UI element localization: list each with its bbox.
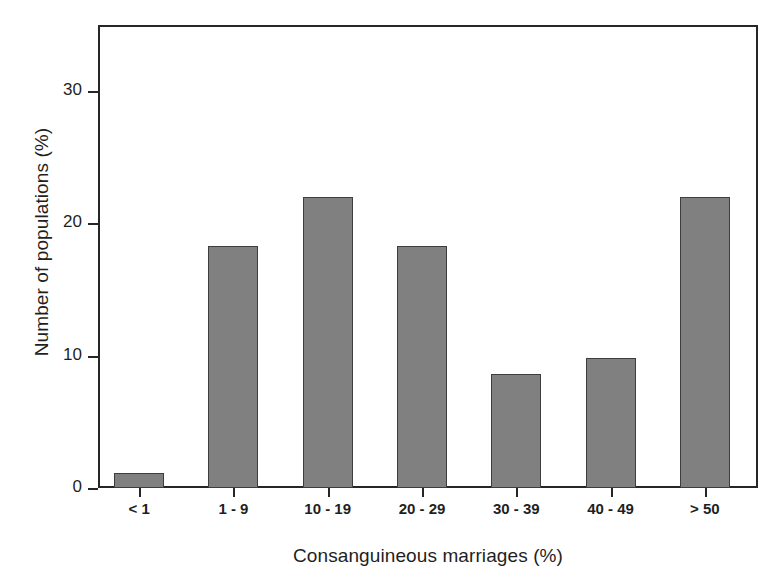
y-axis-tick	[88, 356, 98, 358]
y-axis-tick	[88, 91, 98, 93]
y-axis-tick	[88, 488, 98, 490]
x-axis-tick	[611, 488, 613, 497]
x-axis-tick	[516, 488, 518, 497]
x-axis-tick-label: > 50	[660, 500, 750, 517]
y-axis-tick-label: 0	[24, 477, 82, 497]
bar	[397, 246, 447, 488]
x-axis-tick	[705, 488, 707, 497]
y-axis-tick-label: 30	[24, 80, 82, 100]
bar	[208, 246, 258, 488]
x-axis-tick-label: 40 - 49	[566, 500, 656, 517]
bar	[491, 374, 541, 488]
x-axis-tick	[233, 488, 235, 497]
x-axis-tick	[139, 488, 141, 497]
bar	[303, 197, 353, 488]
x-axis-tick-label: 20 - 29	[377, 500, 467, 517]
x-axis-title: Consanguineous marriages (%)	[98, 545, 758, 567]
bar	[114, 473, 164, 488]
x-axis-tick-label: 1 - 9	[188, 500, 278, 517]
bar	[680, 197, 730, 488]
x-axis-tick	[328, 488, 330, 497]
x-axis-tick-label: < 1	[94, 500, 184, 517]
bar-chart-figure: Number of populations (%) 0102030 < 11 -…	[0, 0, 781, 586]
x-axis-tick-label: 10 - 19	[283, 500, 373, 517]
x-axis-tick	[422, 488, 424, 497]
bar	[586, 358, 636, 488]
y-axis-tick-label: 10	[24, 345, 82, 365]
x-axis-tick-label: 30 - 39	[471, 500, 561, 517]
y-axis-tick	[88, 223, 98, 225]
y-axis-tick-label: 20	[24, 212, 82, 232]
